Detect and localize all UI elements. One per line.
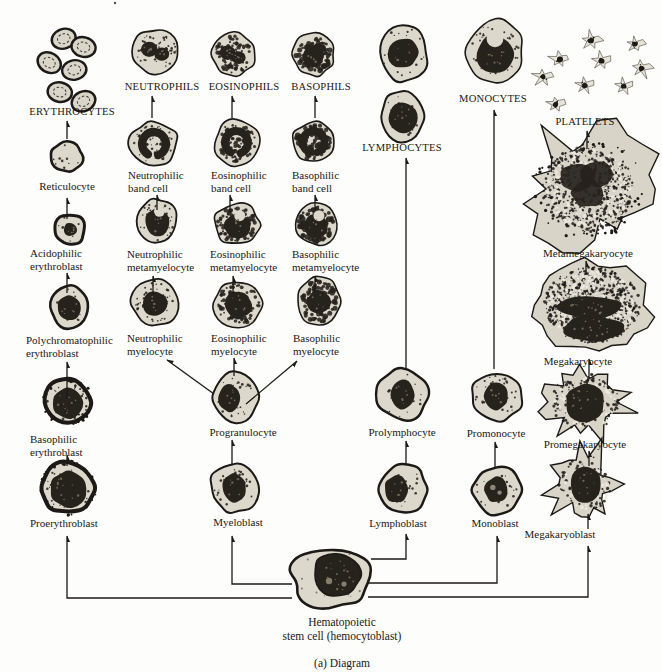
cell-eosinophilic-myelocyte bbox=[211, 278, 265, 330]
cell-neutrophilic-band-cell bbox=[128, 118, 180, 170]
cell-basophilic-erythroblast bbox=[40, 376, 95, 429]
label-erythrocytes: ERYTHROCYTES bbox=[20, 106, 124, 119]
label-acidophilic-erythroblast: Acidophilic erythroblast bbox=[30, 247, 96, 273]
label-megakaryoblast: Megakaryoblast bbox=[515, 528, 605, 541]
label-basophilic-metamyelocyte: Basophilic metamyelocyte bbox=[292, 248, 372, 274]
cell-polychromatophilic-erythroblast bbox=[46, 282, 92, 332]
label-eosinophils: EOSINOPHILS bbox=[200, 81, 288, 94]
label-basophilic-myelocyte: Basophilic myelocyte bbox=[293, 332, 363, 358]
label-neutrophilic-band-cell: Neutrophilic band cell bbox=[128, 169, 192, 195]
cell-reticulocyte bbox=[47, 138, 87, 176]
label-basophils: BASOPHILS bbox=[282, 81, 360, 94]
label-myeloblast: Myeloblast bbox=[196, 516, 280, 529]
cell-eosinophilic-band-cell bbox=[212, 117, 261, 168]
cell-lymphoblast bbox=[376, 463, 430, 515]
page-speck bbox=[114, 2, 116, 4]
cell-promegakaryocyte bbox=[539, 364, 631, 440]
label-progranulocyte: Progranulocyte bbox=[197, 426, 289, 439]
cell-promonocyte bbox=[468, 368, 525, 424]
label-monocytes: MONOCYTES bbox=[450, 93, 536, 106]
cell-metamegakaryocyte bbox=[526, 131, 650, 247]
cell-monocyte bbox=[464, 15, 526, 87]
hematopoiesis-diagram: ERYTHROCYTES Reticulocyte Acidophilic er… bbox=[0, 0, 662, 672]
label-eosinophilic-metamyelocyte: Eosinophilic metamyelocyte bbox=[210, 248, 290, 274]
label-neutrophils: NEUTROPHILS bbox=[116, 81, 208, 94]
label-polychromatophilic-erythroblast: Polychromatophilic erythroblast bbox=[26, 334, 126, 360]
label-prolymphocyte: Prolymphocyte bbox=[360, 426, 444, 439]
label-basophilic-band-cell: Basophilic band cell bbox=[292, 169, 356, 195]
cell-monoblast bbox=[471, 464, 522, 516]
label-megakaryocyte: Megakaryocyte bbox=[532, 355, 624, 368]
cell-megakaryocyte bbox=[531, 258, 653, 352]
label-neutrophilic-metamyelocyte: Neutrophilic metamyelocyte bbox=[127, 248, 205, 274]
label-eosinophilic-myelocyte: Eosinophilic myelocyte bbox=[211, 332, 281, 358]
label-lymphoblast: Lymphoblast bbox=[358, 517, 438, 530]
cell-eosinophilic-metamyelocyte bbox=[211, 201, 262, 248]
cell-prolymphocyte bbox=[375, 366, 430, 423]
cell-megakaryoblast bbox=[548, 448, 622, 520]
cell-acidophilic-erythroblast bbox=[50, 210, 90, 248]
cell-erythrocytes bbox=[36, 24, 102, 116]
label-platelets: PLATELETS bbox=[540, 116, 630, 129]
cell-basophilic-metamyelocyte bbox=[293, 201, 339, 248]
label-basophilic-erythroblast: Basophilic erythroblast bbox=[30, 433, 100, 459]
label-promonocyte: Promonocyte bbox=[454, 427, 538, 440]
label-lymphocytes: LYMPHOCYTES bbox=[355, 142, 449, 155]
cell-basophilic-myelocyte bbox=[295, 274, 342, 328]
stem-cell-label-line2: stem cell (hemocytoblast) bbox=[262, 630, 422, 644]
cell-neutrophilic-metamyelocyte bbox=[133, 195, 180, 247]
cell-progranulocyte bbox=[211, 371, 260, 425]
cell-neutrophil bbox=[130, 26, 182, 76]
figure-caption: (a) Diagram bbox=[292, 657, 392, 671]
cell-basophilic-band-cell bbox=[291, 119, 336, 165]
label-proerythroblast: Proerythroblast bbox=[30, 517, 120, 530]
cell-eosinophil bbox=[211, 30, 256, 79]
cell-hematopoietic-stem-cell bbox=[288, 542, 374, 612]
cell-lymphocyte-small bbox=[378, 90, 426, 144]
label-neutrophilic-myelocyte: Neutrophilic myelocyte bbox=[127, 332, 197, 358]
label-promegakaryocyte: Promegakaryocyte bbox=[535, 438, 635, 451]
cell-lymphocyte-large bbox=[376, 20, 430, 84]
label-metamegakaryocyte: Metamegakaryocyte bbox=[533, 247, 643, 260]
stem-cell-label-line1: Hematopoietic bbox=[262, 616, 422, 630]
label-eosinophilic-band-cell: Eosinophilic band cell bbox=[211, 169, 277, 195]
label-reticulocyte: Reticulocyte bbox=[27, 180, 107, 193]
cell-proerythroblast bbox=[38, 458, 98, 518]
cell-myeloblast bbox=[208, 460, 260, 515]
cell-platelets bbox=[528, 32, 654, 118]
label-hematopoietic-stem-cell: Hematopoietic stem cell (hemocytoblast) bbox=[262, 616, 422, 644]
cell-neutrophilic-myelocyte bbox=[130, 276, 180, 330]
cell-basophil bbox=[291, 32, 336, 78]
